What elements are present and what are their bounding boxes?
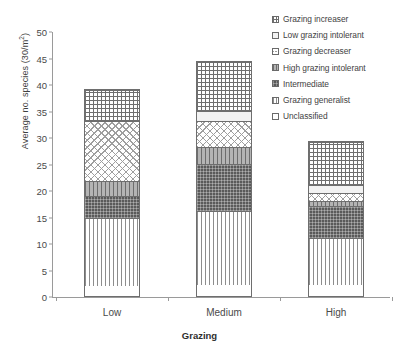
bar-segment [197,285,251,296]
y-tick-mark [49,297,52,298]
legend-label: Grazing increaser [283,14,348,24]
bar-segment [85,218,139,287]
x-axis-line [52,297,390,298]
legend-swatch-icon [272,80,279,87]
legend-swatch-icon [272,64,279,71]
legend-swatch-icon [272,16,279,23]
legend-label: Low grazing intolerant [283,30,364,40]
y-tick-label: 35 [36,106,47,117]
bar-segment [85,90,139,121]
bar-segment [85,196,139,217]
legend-item[interactable]: Unclassified [272,108,398,124]
x-axis-title: Grazing [0,330,399,341]
bar-segment [85,121,139,180]
y-tick-mark [49,217,52,218]
y-tick-mark [49,164,52,165]
bar-segment [197,121,251,146]
legend-item[interactable]: Low grazing intolerant [272,27,398,43]
legend-label: Grazing decreaser [283,46,351,56]
plot-area: 05101520253035404550 LowMediumHigh [52,32,276,297]
bar-segment [197,164,251,212]
y-tick-label: 50 [36,27,47,38]
bar-high[interactable] [308,141,364,297]
y-tick-label: 5 [42,265,47,276]
legend-swatch-icon [272,97,279,104]
legend-label: Unclassified [283,111,328,121]
y-tick-label: 15 [36,212,47,223]
x-tick-mark [56,297,57,301]
bar-segment [309,142,363,184]
bar-medium[interactable] [196,61,252,297]
bar-segment [85,286,139,296]
y-tick-label: 40 [36,80,47,91]
x-tick-label-high: High [326,307,347,318]
legend-item[interactable]: Grazing decreaser [272,43,398,59]
bar-segment [85,181,139,197]
legend-swatch-icon [272,48,279,55]
y-tick-mark [49,58,52,59]
y-tick-label: 0 [42,292,47,303]
legend-item[interactable]: Grazing increaser [272,11,398,27]
bar-low[interactable] [84,89,140,297]
y-tick-label: 25 [36,159,47,170]
legend-item[interactable]: Grazing generalist [272,92,398,108]
legend-item[interactable]: Intermediate [272,76,398,92]
y-axis-title: Average no. species (30/m2) [18,6,30,176]
stacked-bar-chart: Average no. species (30/m2) 051015202530… [0,0,399,350]
legend: Grazing increaserLow grazing intolerantG… [272,11,398,124]
y-tick-mark [49,111,52,112]
x-tick-label-medium: Medium [206,307,242,318]
bar-segment [309,206,363,238]
x-tick-mark [392,297,393,301]
y-tick-mark [49,138,52,139]
y-tick-mark [49,85,52,86]
y-tick-label: 30 [36,133,47,144]
legend-label: High grazing intolerant [283,63,366,73]
bar-segment [309,185,363,193]
legend-swatch-icon [272,113,279,120]
y-tick-label: 45 [36,53,47,64]
legend-label: Intermediate [283,79,329,89]
y-tick-label: 10 [36,239,47,250]
x-tick-mark [280,297,281,301]
bar-segment [197,147,251,164]
y-axis-line [52,32,53,297]
bar-segment [197,62,251,110]
bar-segment [197,111,251,122]
y-tick-mark [49,244,52,245]
y-tick-mark [49,32,52,33]
legend-label: Grazing generalist [283,95,350,105]
legend-item[interactable]: High grazing intolerant [272,60,398,76]
bar-segment [309,285,363,296]
bar-segment [197,211,251,285]
x-tick-mark [168,297,169,301]
legend-swatch-icon [272,32,279,39]
y-tick-mark [49,270,52,271]
bar-segment [309,238,363,286]
y-tick-label: 20 [36,186,47,197]
bar-segment [309,193,363,201]
y-tick-mark [49,191,52,192]
x-tick-label-low: Low [103,307,121,318]
